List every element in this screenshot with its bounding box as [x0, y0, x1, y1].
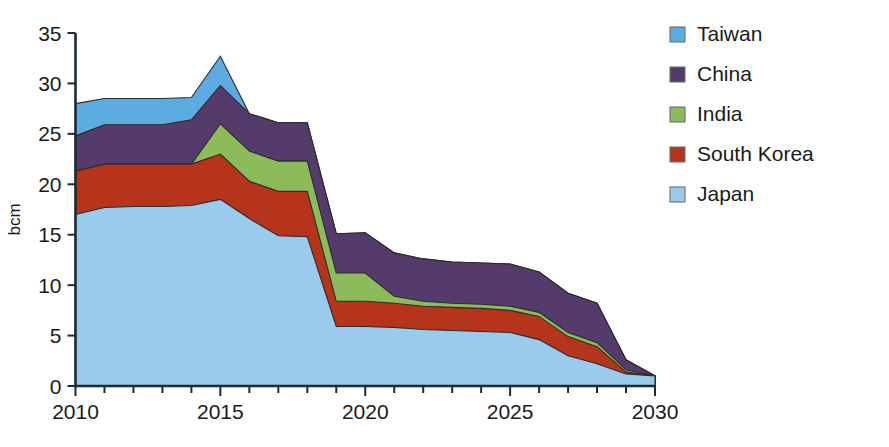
y-tick-label-0: 0 — [50, 375, 62, 398]
legend-swatch-japan — [670, 187, 685, 202]
y-tick-label-10: 10 — [38, 274, 61, 297]
y-axis-title-text: bcm — [5, 203, 24, 235]
y-axis-tick-labels: 05101520253035 — [38, 22, 61, 398]
legend-label-taiwan: Taiwan — [697, 22, 762, 45]
y-tick-label-15: 15 — [38, 223, 61, 246]
legend-item-japan: Japan — [670, 182, 754, 205]
x-tick-label-2030: 2030 — [632, 400, 679, 423]
legend-swatch-china — [670, 67, 685, 82]
y-tick-label-30: 30 — [38, 72, 61, 95]
y-tick-label-25: 25 — [38, 122, 61, 145]
legend-swatch-india — [670, 107, 685, 122]
y-axis-title: bcm — [5, 203, 24, 235]
x-tick-label-2025: 2025 — [487, 400, 534, 423]
y-tick-label-20: 20 — [38, 173, 61, 196]
x-tick-label-2010: 2010 — [52, 400, 99, 423]
y-tick-label-5: 5 — [50, 324, 62, 347]
x-tick-label-2015: 2015 — [197, 400, 244, 423]
stacked-area-chart: 05101520253035 20102015202020252030 bcm … — [0, 0, 889, 447]
legend-item-south-korea: South Korea — [670, 142, 814, 165]
chart-legend: TaiwanChinaIndiaSouth KoreaJapan — [670, 22, 814, 205]
legend-label-india: India — [697, 102, 743, 125]
legend-label-china: China — [697, 62, 752, 85]
legend-label-japan: Japan — [697, 182, 754, 205]
chart-canvas: 05101520253035 20102015202020252030 bcm … — [0, 0, 889, 447]
legend-item-taiwan: Taiwan — [670, 22, 762, 45]
chart-areas — [76, 56, 656, 386]
legend-swatch-south-korea — [670, 147, 685, 162]
y-tick-label-35: 35 — [38, 22, 61, 45]
legend-swatch-taiwan — [670, 27, 685, 42]
legend-label-south-korea: South Korea — [697, 142, 814, 165]
legend-item-china: China — [670, 62, 752, 85]
x-tick-label-2020: 2020 — [342, 400, 389, 423]
legend-item-india: India — [670, 102, 743, 125]
x-axis-tick-labels: 20102015202020252030 — [52, 400, 678, 423]
